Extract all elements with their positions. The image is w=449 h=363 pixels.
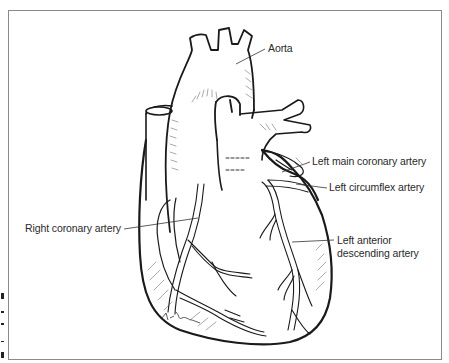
label-aorta: Aorta	[268, 42, 293, 55]
right-coronary-artery-vessel	[168, 184, 266, 336]
label-left-main-coronary-artery: Left main coronary artery	[312, 155, 426, 168]
aorta	[165, 28, 254, 232]
artist-signature	[162, 312, 200, 323]
label-right-coronary-artery: Right coronary artery	[25, 222, 121, 235]
label-lad-line2: descending artery	[337, 247, 419, 260]
right-coronary-leader	[124, 218, 198, 229]
label-lad-line1: Left anterior	[337, 234, 392, 247]
left-coronary-arteries	[260, 180, 312, 334]
leader-lines	[124, 49, 334, 242]
label-left-circumflex-artery: Left circumflex artery	[329, 181, 424, 194]
